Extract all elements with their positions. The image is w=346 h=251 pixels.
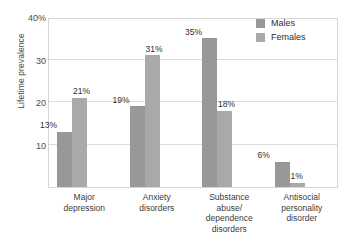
bar-females <box>145 55 160 187</box>
legend-item: Males <box>256 19 336 28</box>
legend-item: Females <box>256 33 336 42</box>
legend-label: Males <box>271 19 295 28</box>
bar-value-label: 35% <box>185 28 202 37</box>
x-category-label-line: dependence <box>193 213 266 224</box>
bar-value-label: 13% <box>40 121 57 130</box>
bar-value-label: 18% <box>218 100 235 109</box>
bar-group: 19%31% <box>122 19 195 187</box>
bar-males <box>275 162 290 188</box>
x-category-label: Substanceabuse/dependencedisorders <box>193 192 266 234</box>
x-category-label-line: Major <box>48 192 121 203</box>
x-category-label-line: Antisocial <box>266 192 339 203</box>
x-category-label-line: Substance <box>193 192 266 203</box>
bar-females <box>290 183 305 187</box>
bar-males <box>57 132 72 187</box>
y-tick-label: 30 <box>14 56 46 66</box>
bar-males <box>130 106 145 187</box>
legend-swatch-icon <box>256 19 265 28</box>
x-category-label-line: disorders <box>193 224 266 235</box>
bar-value-label: 1% <box>291 172 303 181</box>
bar-value-label: 31% <box>146 45 163 54</box>
bar-value-label: 21% <box>73 87 90 96</box>
x-category-label: Majordepression <box>48 192 121 213</box>
x-axis-category-labels: MajordepressionAnxietydisordersSubstance… <box>48 192 338 250</box>
x-category-label-line: abuse/ <box>193 203 266 214</box>
x-category-label: Antisocialpersonalitydisorder <box>266 192 339 224</box>
bar-group: 13%21% <box>49 19 122 187</box>
bar-females <box>72 98 87 187</box>
x-category-label-line: depression <box>48 203 121 214</box>
x-category-label-line: Anxiety <box>121 192 194 203</box>
bar-females <box>217 111 232 188</box>
x-category-label-line: disorder <box>266 213 339 224</box>
bar-males <box>202 38 217 187</box>
bar-chart: Lifetime prevalence 40%302010 13%21%19%3… <box>0 0 346 251</box>
x-category-label: Anxietydisorders <box>121 192 194 213</box>
y-tick-label: 40% <box>14 13 46 23</box>
chart-legend: MalesFemales <box>256 19 336 47</box>
bar-value-label: 19% <box>113 96 130 105</box>
x-category-label-line: disorders <box>121 203 194 214</box>
legend-swatch-icon <box>256 33 265 42</box>
bar-value-label: 6% <box>258 151 270 160</box>
y-tick-label: 10 <box>14 141 46 151</box>
y-tick-label: 20 <box>14 98 46 108</box>
x-category-label-line: personality <box>266 203 339 214</box>
legend-label: Females <box>271 33 306 42</box>
